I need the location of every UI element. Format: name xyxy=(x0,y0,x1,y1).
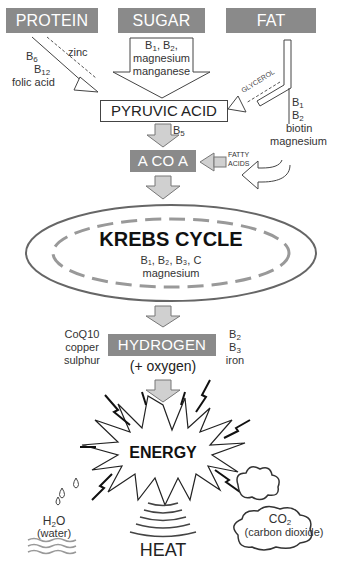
energy-label: ENERGY xyxy=(0,444,326,462)
fat-box: FAT xyxy=(226,8,316,33)
krebs-title: KREBS CYCLE xyxy=(0,228,342,251)
water-label: (water) xyxy=(30,527,78,540)
krebs-cofactors-1: B₁, B₂, B₃, C xyxy=(0,254,342,267)
arrow-fatty-into-acoa xyxy=(200,153,214,171)
arrow-acoa-to-krebs xyxy=(146,176,180,199)
water-waves-icon xyxy=(28,539,76,554)
fat-cofactors: B1 B2 biotin magnesium xyxy=(270,96,340,148)
arrow-krebs-to-hydrogen xyxy=(146,306,180,327)
zinc-label: zinc xyxy=(68,46,88,59)
protein-box: PROTEIN xyxy=(6,8,98,33)
water-drops-icon xyxy=(56,478,79,505)
heat-label: HEAT xyxy=(130,540,196,561)
co2-label: (carbon dioxide) xyxy=(236,526,332,539)
sugar-cofactors: B1, B2, magnesium manganese xyxy=(130,39,193,78)
oxygen-label: (+ oxygen) xyxy=(0,358,326,374)
fatty-acids-label: FATTY ACIDS xyxy=(228,150,249,168)
pyruvic-acid-box: PYRUVIC ACID xyxy=(100,100,228,122)
co2-formula: CO2 xyxy=(240,513,320,526)
sugar-box: SUGAR xyxy=(118,8,205,33)
acoa-box: A CO A xyxy=(130,150,196,172)
b5-label: B5 xyxy=(173,124,185,137)
protein-cofactors: B6 B12 folic acid xyxy=(12,50,62,89)
hydrogen-box: HYDROGEN xyxy=(108,334,216,356)
krebs-cofactors-2: magnesium xyxy=(0,267,342,280)
heat-waves-icon xyxy=(130,503,196,537)
